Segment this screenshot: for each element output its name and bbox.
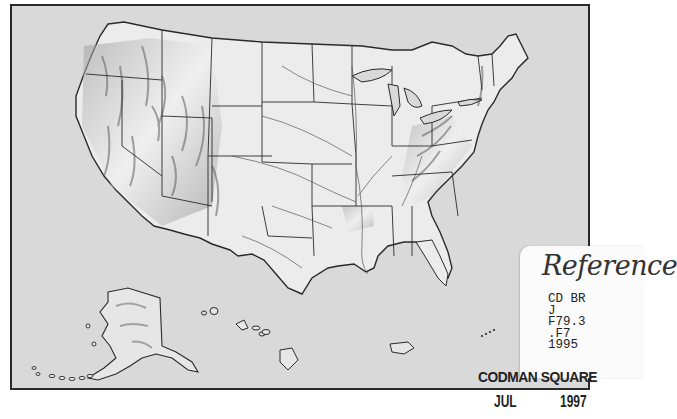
hawaii-shape — [202, 308, 299, 371]
map-frame — [10, 4, 590, 390]
library-branch-stamp: CODMAN SQUARE — [478, 368, 597, 385]
alaska-shape — [88, 288, 198, 380]
library-reference-label: Reference CD BR J F79.3 .F7 1995 — [520, 246, 644, 378]
puerto-rico-shape — [390, 342, 414, 354]
label-heading: Reference — [542, 250, 677, 281]
stamp-year: 1997 — [560, 393, 587, 411]
stamp-month: JUL — [494, 393, 517, 411]
us-relief-map — [12, 6, 588, 388]
call-number: CD BR J F79.3 .F7 1995 — [548, 294, 586, 352]
